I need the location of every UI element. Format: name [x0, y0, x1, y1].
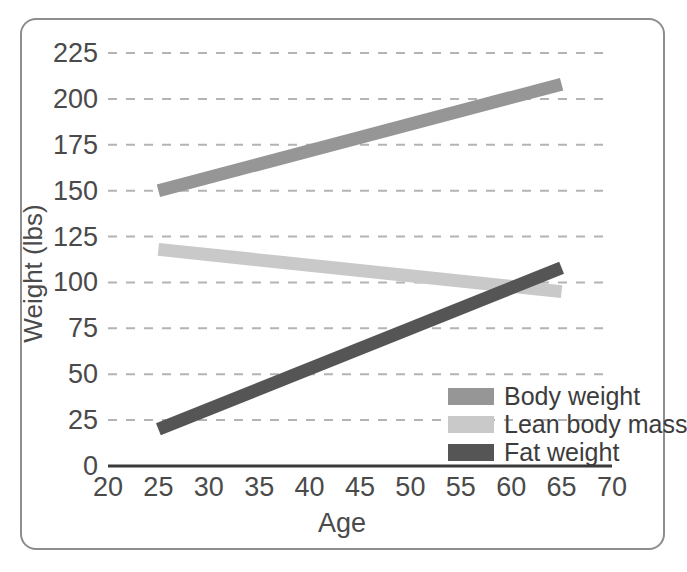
legend-item: Lean body mass — [448, 411, 687, 438]
y-tick-label: 75 — [40, 315, 98, 342]
gridlines — [108, 53, 612, 420]
y-tick-label: 0 — [40, 453, 98, 480]
x-axis-title: Age — [0, 508, 684, 539]
y-tick-label: 50 — [40, 361, 98, 388]
x-tick-label: 25 — [143, 474, 173, 501]
legend-label: Body weight — [504, 384, 640, 409]
series-lines — [158, 84, 561, 429]
y-tick-label: 125 — [40, 223, 98, 250]
x-tick-label: 65 — [547, 474, 577, 501]
x-tick-label: 30 — [194, 474, 224, 501]
x-tick-label: 70 — [597, 474, 627, 501]
x-tick-label: 45 — [345, 474, 375, 501]
x-tick-label: 35 — [244, 474, 274, 501]
legend-swatch — [448, 388, 494, 405]
y-axis-title: Weight (lbs) — [18, 194, 49, 354]
x-tick-label: 55 — [446, 474, 476, 501]
y-tick-label: 175 — [40, 131, 98, 158]
y-tick-label: 200 — [40, 85, 98, 112]
series-line-body-weight — [158, 84, 561, 190]
x-tick-label: 20 — [93, 474, 123, 501]
x-tick-label: 60 — [496, 474, 526, 501]
x-tick-label: 50 — [395, 474, 425, 501]
legend-label: Fat weight — [504, 440, 619, 465]
legend-label: Lean body mass — [504, 412, 687, 437]
legend-item: Body weight — [448, 383, 687, 410]
x-tick-label: 40 — [295, 474, 325, 501]
y-tick-label: 225 — [40, 40, 98, 67]
legend-item: Fat weight — [448, 439, 687, 466]
y-tick-label: 150 — [40, 177, 98, 204]
legend-swatch — [448, 444, 494, 461]
y-tick-label: 100 — [40, 269, 98, 296]
y-tick-label: 25 — [40, 407, 98, 434]
legend-swatch — [448, 416, 494, 433]
chart-legend: Body weightLean body massFat weight — [448, 383, 687, 467]
